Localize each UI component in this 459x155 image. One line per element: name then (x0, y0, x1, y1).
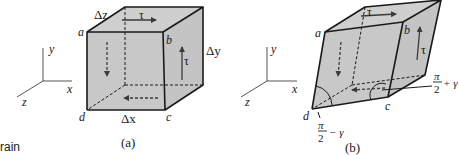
angle-c-denominator: 2 (434, 84, 440, 95)
dimension-dx: Δx (121, 112, 136, 125)
panel-a (17, 7, 203, 110)
angle-c-term: + γ (443, 78, 458, 89)
z-axis (17, 81, 43, 97)
tau-label-right-b: τ (421, 44, 426, 56)
caption-b: (b) (345, 141, 360, 154)
axis-label-x-b: x (292, 83, 297, 95)
vertex-d: d (79, 111, 85, 123)
angle-d-denominator: 2 (318, 133, 324, 144)
axes-b (241, 47, 297, 97)
vertex-a: a (78, 26, 84, 38)
cube-b (312, 0, 442, 131)
angle-c-numerator: π (434, 71, 440, 82)
angle-d-numerator: π (318, 120, 324, 131)
tau-label-top-b: τ (367, 6, 372, 18)
vertex-a-b: a (315, 27, 321, 39)
vertex-b-b: b (404, 24, 410, 36)
vertex-b: b (166, 34, 172, 46)
axis-label-y: y (49, 43, 54, 55)
axis-label-z-b: z (245, 96, 250, 108)
angle-leader-d (318, 112, 320, 118)
axis-label-x: x (67, 83, 72, 95)
vertex-d-b: d (303, 110, 309, 122)
axis-label-y-b: y (271, 43, 276, 55)
axis-label-z: z (22, 96, 27, 108)
dimension-dy: Δy (206, 44, 221, 57)
vertex-c-b: c (385, 100, 390, 112)
shear-strain-diagram (0, 0, 459, 155)
caption-a: (a) (121, 136, 135, 149)
angle-d-term: − γ (329, 127, 344, 138)
tau-label-right: τ (184, 55, 189, 67)
caption-fragment: rain (0, 141, 20, 153)
tau-label-top: τ (139, 9, 144, 21)
panel-b (241, 0, 442, 131)
axes-a (17, 48, 72, 97)
vertex-c: c (166, 111, 171, 123)
dimension-dz: Δz (94, 8, 108, 21)
